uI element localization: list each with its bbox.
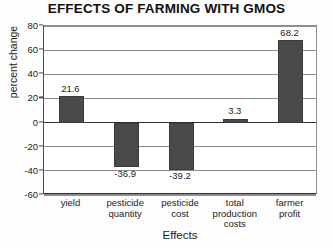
x-category-line: cost [153,209,208,220]
bar-yield[interactable] [59,96,84,122]
x-category-line: pesticide [98,198,153,209]
y-tick-mark-40 [39,73,43,74]
x-category-line: yield [43,198,98,209]
x-category-line: total [207,198,262,209]
y-tick-mark-60 [39,49,43,50]
bar-value-label-yield: 21.6 [40,83,100,94]
x-category-line: quantity [98,209,153,220]
x-axis-title: Effects [43,229,317,241]
y-tick-label--60: -60 [0,189,38,200]
bar-value-label-farmer-profit: 68.2 [260,27,320,38]
y-tick-mark-20 [39,97,43,98]
y-tick-label-40: 40 [0,68,38,79]
bar-pesticide-cost[interactable] [169,123,194,170]
x-category-line: profit [262,209,317,220]
y-tick-label--40: -40 [0,164,38,175]
y-tick-mark-0 [39,121,43,122]
plot-area [43,25,317,194]
chart-figure: EFFECTS OF FARMING WITH GMOS percent cha… [0,0,333,248]
x-category-label-yield: yield [43,198,98,209]
y-tick-label--20: -20 [0,140,38,151]
y-tick-label-20: 20 [0,92,38,103]
gridline--60 [44,194,316,195]
gridline-20 [44,98,316,99]
y-tick-label-60: 60 [0,44,38,55]
x-category-line: farmer [262,198,317,209]
y-tick-label-0: 0 [0,116,38,127]
bar-value-label-total-production-costs: 3.3 [205,105,265,116]
x-category-label-farmer-profit: farmerprofit [262,198,317,219]
y-tick-mark--60 [39,193,43,194]
gridline-60 [44,50,316,51]
x-category-line: pesticide [153,198,208,209]
bar-pesticide-quantity[interactable] [114,123,139,168]
x-category-label-total-production-costs: totalproductioncosts [207,198,262,230]
chart-title: EFFECTS OF FARMING WITH GMOS [0,1,333,16]
y-tick-mark--40 [39,169,43,170]
x-category-label-pesticide-cost: pesticidecost [153,198,208,219]
bar-value-label-pesticide-cost: -39.2 [150,170,210,181]
y-tick-label-80: 80 [0,20,38,31]
bar-farmer-profit[interactable] [278,40,303,122]
y-tick-mark--20 [39,145,43,146]
gridline-40 [44,74,316,75]
x-category-label-pesticide-quantity: pesticidequantity [98,198,153,219]
bar-value-label-pesticide-quantity: -36.9 [95,168,155,179]
y-tick-mark-80 [39,24,43,25]
bar-total-production-costs[interactable] [223,119,248,123]
